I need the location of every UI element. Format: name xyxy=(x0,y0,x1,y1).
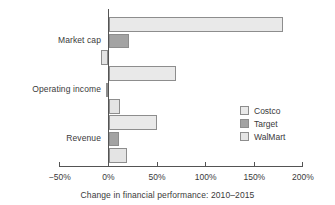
x-axis-title: Change in financial performance: 2010–20… xyxy=(0,190,335,200)
legend-label: WalMart xyxy=(254,132,285,142)
bar xyxy=(109,99,121,114)
bar xyxy=(109,34,129,49)
x-axis-tick xyxy=(205,162,206,167)
x-axis-tick-label: 200% xyxy=(292,172,314,182)
legend-swatch xyxy=(240,119,249,128)
bar xyxy=(109,132,120,147)
x-axis-tick xyxy=(108,162,109,167)
x-axis-tick xyxy=(302,162,303,167)
bar xyxy=(109,148,127,163)
legend-item: WalMart xyxy=(240,130,285,143)
legend-item: Costco xyxy=(240,104,285,117)
x-axis-tick-label: 50% xyxy=(149,172,166,182)
bar-chart: Market capOperating incomeRevenue −50%0%… xyxy=(0,0,335,205)
x-axis-line xyxy=(60,166,303,167)
legend-swatch xyxy=(240,132,249,141)
x-axis-tick-label: 150% xyxy=(243,172,265,182)
chart-legend: CostcoTargetWalMart xyxy=(240,104,285,143)
legend-label: Costco xyxy=(254,106,280,116)
legend-swatch xyxy=(240,106,249,115)
x-axis-tick-label: 100% xyxy=(195,172,217,182)
bar xyxy=(101,50,109,65)
bar xyxy=(109,17,284,32)
x-axis-tick xyxy=(254,162,255,167)
bar xyxy=(109,115,158,130)
legend-item: Target xyxy=(240,117,285,130)
x-axis-tick xyxy=(59,162,60,167)
x-axis-tick-label: −50% xyxy=(49,172,71,182)
x-axis-tick xyxy=(157,162,158,167)
bar xyxy=(106,83,109,98)
legend-label: Target xyxy=(254,119,278,129)
x-axis-tick-label: 0% xyxy=(102,172,114,182)
bar xyxy=(109,66,176,81)
